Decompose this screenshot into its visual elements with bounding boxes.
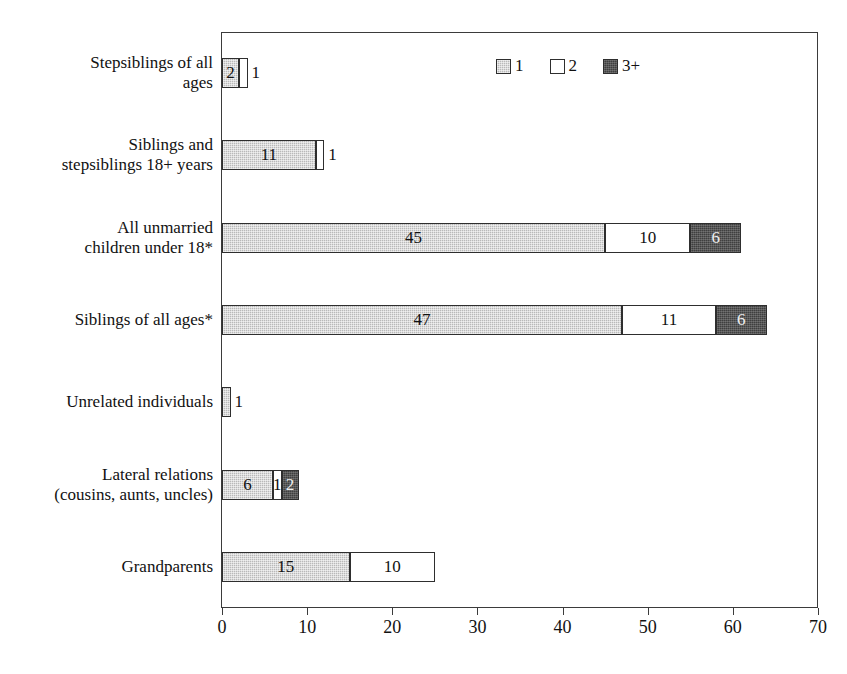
- legend-swatch-icon: [603, 59, 618, 74]
- bar-value-label-outside: 1: [231, 387, 244, 417]
- x-tick-label: 10: [298, 617, 316, 638]
- stacked-bar-chart: Stepsiblings of allagesSiblings andsteps…: [0, 0, 847, 674]
- x-tick-mark: [563, 608, 564, 615]
- bar-value-label: 1: [273, 475, 282, 495]
- legend-label: 1: [515, 56, 524, 76]
- x-tick-mark: [818, 608, 819, 615]
- category-label-1: Siblings andstepsiblings 18+ years: [0, 135, 213, 175]
- bar-row: 612: [222, 470, 818, 500]
- x-tick-mark: [307, 608, 308, 615]
- category-label-line: (cousins, aunts, uncles): [0, 485, 213, 505]
- bar-segment[interactable]: 2: [282, 470, 299, 500]
- bar-value-label: 11: [261, 145, 277, 165]
- bar-value-label-outside: 1: [324, 140, 337, 170]
- bar-value-label: 2: [286, 475, 295, 495]
- bar-value-label: 10: [384, 557, 401, 577]
- x-tick-mark: [733, 608, 734, 615]
- x-tick-label: 50: [639, 617, 657, 638]
- x-axis: 010203040506070: [221, 608, 818, 660]
- bar-segment[interactable]: 11: [222, 140, 316, 170]
- category-label-line: Lateral relations: [0, 465, 213, 485]
- bar-row: 1510: [222, 552, 818, 582]
- bar-value-label: 6: [737, 310, 746, 330]
- x-tick-mark: [392, 608, 393, 615]
- category-label-line: Unrelated individuals: [0, 392, 213, 412]
- x-tick-label: 70: [809, 617, 827, 638]
- bar-value-label: 45: [405, 228, 422, 248]
- bar-segment[interactable]: 10: [350, 552, 435, 582]
- bar-segment[interactable]: 45: [222, 223, 605, 253]
- bar-row: 47116: [222, 305, 818, 335]
- legend-label: 2: [569, 56, 578, 76]
- category-label-line: Siblings of all ages*: [0, 310, 213, 330]
- legend-swatch-icon: [550, 59, 565, 74]
- category-label-line: Grandparents: [0, 557, 213, 577]
- x-tick-label: 0: [218, 617, 227, 638]
- x-tick-label: 40: [554, 617, 572, 638]
- category-label-2: All unmarriedchildren under 18*: [0, 218, 213, 258]
- legend-item-1[interactable]: 1: [496, 56, 524, 76]
- bar-row: 45106: [222, 223, 818, 253]
- x-tick-mark: [648, 608, 649, 615]
- category-label-3: Siblings of all ages*: [0, 310, 213, 330]
- legend-item-2[interactable]: 2: [550, 56, 578, 76]
- bar-row: 111: [222, 140, 818, 170]
- bar-value-label: 11: [661, 310, 677, 330]
- bar-value-label-outside: 1: [248, 58, 261, 88]
- category-label-5: Lateral relations(cousins, aunts, uncles…: [0, 465, 213, 505]
- bar-value-label: 2: [226, 63, 235, 83]
- bar-segment[interactable]: [222, 387, 231, 417]
- category-label-line: stepsiblings 18+ years: [0, 155, 213, 175]
- category-label-6: Grandparents: [0, 557, 213, 577]
- bar-segment[interactable]: 10: [605, 223, 690, 253]
- legend-label: 3+: [622, 56, 640, 76]
- bar-row: 1: [222, 387, 818, 417]
- category-label-line: Siblings and: [0, 135, 213, 155]
- x-tick-label: 60: [724, 617, 742, 638]
- bar-segment[interactable]: 1: [273, 470, 282, 500]
- legend-item-3plus[interactable]: 3+: [603, 56, 640, 76]
- bar-value-label: 6: [712, 228, 721, 248]
- bar-segment[interactable]: 47: [222, 305, 622, 335]
- bar-segment[interactable]: 6: [716, 305, 767, 335]
- chart-legend: 123+: [496, 56, 640, 76]
- bar-segment[interactable]: [316, 140, 325, 170]
- bar-rows: 21111451064711616121510: [222, 32, 818, 608]
- bar-segment[interactable]: 15: [222, 552, 350, 582]
- bar-value-label: 47: [414, 310, 431, 330]
- category-axis-labels: Stepsiblings of allagesSiblings andsteps…: [0, 32, 217, 608]
- bar-segment[interactable]: 6: [222, 470, 273, 500]
- x-tick-mark: [222, 608, 223, 615]
- category-label-4: Unrelated individuals: [0, 392, 213, 412]
- x-tick-label: 20: [383, 617, 401, 638]
- category-label-line: ages: [0, 73, 213, 93]
- legend-swatch-icon: [496, 59, 511, 74]
- category-label-0: Stepsiblings of allages: [0, 53, 213, 93]
- bar-value-label: 10: [639, 228, 656, 248]
- bar-value-label: 15: [277, 557, 294, 577]
- bar-segment[interactable]: [239, 58, 248, 88]
- bar-segment[interactable]: 6: [690, 223, 741, 253]
- bar-value-label: 6: [243, 475, 252, 495]
- category-label-line: All unmarried: [0, 218, 213, 238]
- bar-segment[interactable]: 11: [622, 305, 716, 335]
- x-tick-label: 30: [468, 617, 486, 638]
- clipped-caption-text: [38, 0, 828, 5]
- bar-segment[interactable]: 2: [222, 58, 239, 88]
- category-label-line: Stepsiblings of all: [0, 53, 213, 73]
- category-label-line: children under 18*: [0, 238, 213, 258]
- x-tick-mark: [477, 608, 478, 615]
